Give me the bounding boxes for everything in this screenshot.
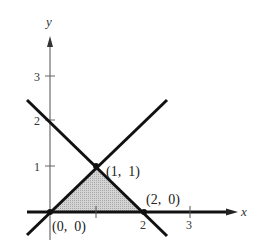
y-axis-arrow-icon xyxy=(47,36,53,47)
y-tick-label-1: 1 xyxy=(34,160,40,174)
vertex-2-0 xyxy=(141,209,147,215)
x-axis-arrow-icon xyxy=(226,209,238,216)
y-tick-label-3: 3 xyxy=(34,70,40,84)
vertex-origin xyxy=(47,209,53,215)
graph: y 1 2 3 x 2 3 (0, 0) (1, 1) (2, 0) xyxy=(0,0,256,249)
y-tick-label-2: 2 xyxy=(34,114,40,128)
label-origin: (0, 0) xyxy=(52,219,86,235)
x-tick-label-2: 2 xyxy=(140,218,146,232)
label-point-1-1: (1, 1) xyxy=(106,164,140,180)
y-axis-label: y xyxy=(44,14,52,29)
label-point-2-0: (2, 0) xyxy=(146,192,180,208)
x-tick-label-3: 3 xyxy=(186,218,192,232)
x-axis-label: x xyxy=(240,204,247,219)
vertex-1-1 xyxy=(93,163,99,169)
